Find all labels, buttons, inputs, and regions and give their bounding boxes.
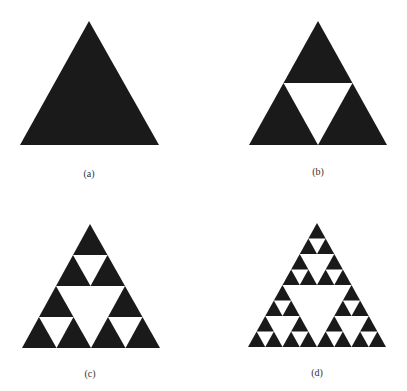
triangle <box>326 254 343 270</box>
triangle <box>283 270 300 286</box>
panel-b <box>249 21 387 145</box>
triangle <box>308 223 325 239</box>
triangle <box>334 301 351 317</box>
triangle <box>291 316 308 332</box>
triangle <box>108 286 143 317</box>
panel-b-label: (b) <box>312 166 324 177</box>
triangle <box>284 21 353 83</box>
triangle <box>317 332 334 348</box>
triangle <box>249 83 318 145</box>
panel-a <box>20 21 159 145</box>
triangle <box>39 286 74 317</box>
triangle <box>265 332 282 348</box>
panel-a-label: (a) <box>83 168 94 179</box>
triangle <box>283 332 300 348</box>
sierpinski-figure <box>0 0 407 391</box>
panel-c-label: (c) <box>84 368 95 379</box>
triangle <box>317 239 334 255</box>
triangle <box>91 255 126 286</box>
triangle <box>326 316 343 332</box>
triangle <box>352 332 369 348</box>
triangle <box>352 301 369 317</box>
triangle <box>300 239 317 255</box>
triangle <box>248 332 265 348</box>
triangle <box>283 301 300 317</box>
triangle <box>57 317 92 348</box>
panel-d-label: (d) <box>311 367 323 378</box>
triangle <box>56 255 91 286</box>
triangle <box>257 316 274 332</box>
triangle <box>91 317 126 348</box>
panel-c <box>22 224 160 348</box>
triangle <box>300 332 317 348</box>
triangle <box>300 270 317 286</box>
triangle <box>73 224 108 255</box>
triangle <box>318 83 387 145</box>
triangle <box>360 316 377 332</box>
triangle <box>343 285 360 301</box>
panel-d <box>248 223 386 347</box>
triangle <box>334 332 351 348</box>
triangle <box>126 317 161 348</box>
triangle <box>265 301 282 317</box>
triangle <box>334 270 351 286</box>
triangle <box>291 254 308 270</box>
triangle <box>369 332 386 348</box>
triangle <box>317 270 334 286</box>
triangle <box>20 21 159 145</box>
triangle <box>22 317 57 348</box>
triangle <box>274 285 291 301</box>
